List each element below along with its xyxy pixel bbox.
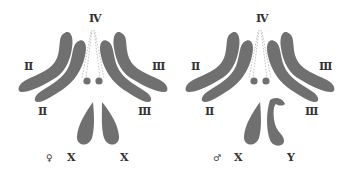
autosome-set	[186, 30, 335, 102]
label-ii-inner: Ⅱ	[205, 105, 214, 118]
y-chromosome	[267, 98, 285, 146]
x-chromosome-right	[102, 102, 119, 145]
label-x-right: X	[120, 151, 129, 164]
label-x-left: X	[67, 151, 76, 164]
label-iii-inner: Ⅲ	[305, 105, 318, 118]
label-ii-inner: Ⅱ	[38, 105, 47, 118]
female-figure: Ⅳ Ⅱ Ⅱ Ⅲ Ⅲ ♀ X X	[19, 12, 168, 164]
label-x: X	[234, 151, 243, 164]
label-iii-outer: Ⅲ	[319, 60, 332, 73]
x-chromosome-left	[77, 102, 94, 145]
label-iv: Ⅳ	[89, 12, 102, 25]
label-y: Y	[286, 151, 295, 164]
female-symbol: ♀	[46, 153, 53, 163]
autosome-set	[19, 30, 168, 102]
male-figure: Ⅳ Ⅱ Ⅱ Ⅲ Ⅲ ♂ X Y	[186, 12, 335, 164]
chromosome-diagram: Ⅳ Ⅱ Ⅱ Ⅲ Ⅲ ♀ X X Ⅳ Ⅱ Ⅱ Ⅲ Ⅲ ♂ X Y	[0, 0, 352, 182]
male-symbol: ♂	[213, 153, 221, 163]
label-iii-outer: Ⅲ	[152, 60, 165, 73]
label-ii-outer: Ⅱ	[24, 60, 33, 73]
label-iv: Ⅳ	[256, 12, 269, 25]
label-iii-inner: Ⅲ	[138, 105, 151, 118]
x-chromosome	[244, 102, 261, 145]
label-ii-outer: Ⅱ	[191, 60, 200, 73]
